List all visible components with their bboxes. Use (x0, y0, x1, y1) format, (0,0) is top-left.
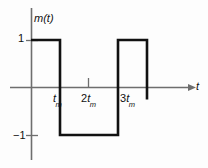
y-tick-label-negative-one: −1 (13, 130, 26, 141)
x-tick-label-tm: tm (53, 93, 62, 107)
x-axis-label: t (196, 81, 199, 92)
x-tick-label-2tm: 2tm (81, 93, 96, 107)
y-axis-label-text: m(t) (34, 12, 54, 24)
y-tick-label-one: 1 (18, 33, 24, 44)
x-tick-label-3tm-subscript: m (129, 100, 135, 109)
x-axis-arrow-icon (188, 84, 196, 91)
y-axis-label: m(t) (34, 13, 54, 24)
x-tick-label-3tm: 3tm (120, 93, 135, 107)
x-tick-label-2tm-subscript: m (90, 100, 96, 109)
x-tick-label-tm-subscript: m (56, 100, 62, 109)
figure-container: m(t) 1 −1 tm 2tm 3tm t (0, 0, 208, 168)
square-wave-plot (0, 0, 208, 168)
